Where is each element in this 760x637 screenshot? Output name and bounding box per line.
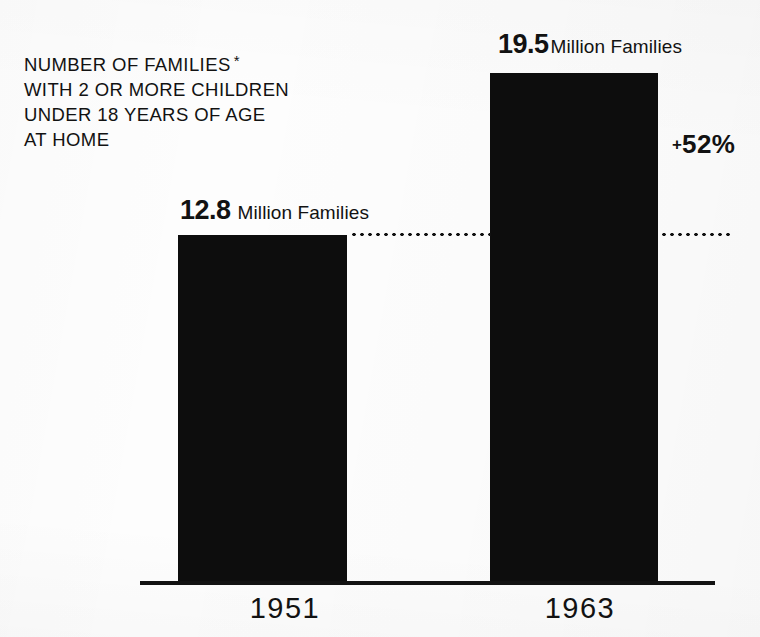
reference-line-segment-right (660, 232, 732, 237)
bar-value-number-1951: 12.8 (180, 195, 231, 225)
bar-value-label-1951: 12.8Million Families (180, 195, 369, 226)
title-line-3: UNDER 18 YEARS OF AGE (24, 102, 289, 127)
title-line-1-text: NUMBER OF FAMILIES (24, 54, 231, 75)
x-axis-line (140, 581, 715, 585)
bar-1951 (178, 235, 347, 583)
bar-chart: NUMBER OF FAMILIES* WITH 2 OR MORE CHILD… (0, 0, 760, 637)
percent-change-annotation: +52% (672, 129, 735, 160)
bar-value-number-1963: 19.5 (498, 29, 549, 59)
percent-change-amount: 52% (682, 129, 736, 159)
chart-title: NUMBER OF FAMILIES* WITH 2 OR MORE CHILD… (24, 48, 289, 152)
bar-1963 (490, 73, 658, 583)
x-axis-tick-label-1951: 1951 (205, 592, 365, 625)
x-axis-tick-label-1963: 1963 (500, 592, 660, 625)
percent-change-sign: + (672, 135, 682, 154)
title-line-2: WITH 2 OR MORE CHILDREN (24, 77, 289, 102)
title-line-1: NUMBER OF FAMILIES* (24, 48, 289, 77)
reference-line-segment-left (350, 232, 491, 237)
title-line-4: AT HOME (24, 127, 289, 152)
bar-value-unit-1951: Million Families (238, 202, 369, 223)
title-footnote-asterisk: * (234, 52, 240, 69)
bar-value-label-1963: 19.5Million Families (498, 29, 682, 60)
bar-value-unit-1963: Million Families (551, 36, 682, 57)
